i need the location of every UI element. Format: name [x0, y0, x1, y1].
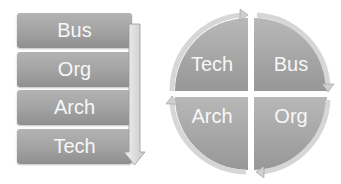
quadrant-label-arch: Arch: [191, 105, 232, 127]
down-arrow-icon: [124, 24, 145, 165]
quadrant-label-bus: Bus: [274, 53, 308, 75]
quadrant-label-org: Org: [274, 105, 307, 127]
cycle-diagram: Tech Bus Arch Org: [166, 9, 334, 178]
diagram-canvas: Tech Bus Arch Org: [0, 0, 341, 184]
quadrant-label-tech: Tech: [191, 53, 233, 75]
cycle-arrowheads-icon: [166, 9, 334, 178]
